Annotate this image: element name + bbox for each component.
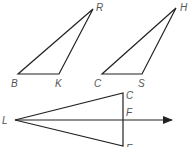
geometry-diagram: B K R C S H L C E F xyxy=(0,0,191,147)
vertex-label-c: C xyxy=(94,78,102,89)
vertex-label-r: R xyxy=(96,2,103,13)
triangle-bkr xyxy=(18,9,93,74)
vertex-label-c2: C xyxy=(126,90,134,101)
vertex-label-e: E xyxy=(126,143,133,147)
vertex-label-b: B xyxy=(11,78,18,89)
vertex-label-k: K xyxy=(55,78,63,89)
point-label-f: F xyxy=(126,107,133,118)
vertex-label-l: L xyxy=(2,115,8,126)
vertex-label-s: S xyxy=(138,78,145,89)
vertex-label-h: H xyxy=(180,2,188,13)
triangle-csh xyxy=(102,8,176,74)
